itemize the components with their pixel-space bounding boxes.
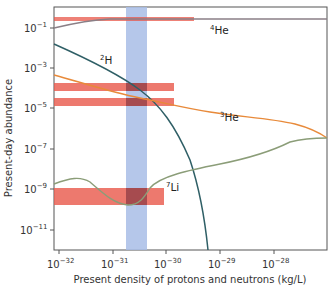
- svg-text:10−5: 10−5: [24, 101, 47, 114]
- svg-text:10−11: 10−11: [20, 223, 48, 236]
- svg-text:10−32: 10−32: [47, 257, 75, 270]
- y-ticks: [50, 28, 54, 230]
- abundance-chart: 10−1 10−3 10−5 10−7 10−9 10−11 10−32 10−…: [0, 0, 331, 286]
- band-h2: [54, 83, 174, 91]
- y-axis-title: Present-day abundance: [3, 79, 14, 197]
- plot-area: [54, 7, 327, 250]
- y-tick-labels: 10−1 10−3 10−5 10−7 10−9 10−11: [20, 21, 48, 236]
- svg-text:10−29: 10−29: [208, 257, 236, 270]
- x-ticks: [59, 250, 274, 254]
- highlight-band: [126, 7, 147, 250]
- x-tick-labels: 10−32 10−31 10−30 10−29 10−28: [47, 257, 290, 270]
- svg-text:10−28: 10−28: [262, 257, 290, 270]
- svg-text:10−31: 10−31: [101, 257, 129, 270]
- svg-text:10−1: 10−1: [24, 21, 47, 34]
- svg-text:10−30: 10−30: [154, 257, 182, 270]
- band-li7: [54, 188, 164, 205]
- svg-text:10−7: 10−7: [24, 142, 47, 155]
- svg-text:10−9: 10−9: [24, 182, 47, 195]
- svg-text:10−3: 10−3: [24, 61, 47, 74]
- x-axis-title: Present density of protons and neutrons …: [74, 274, 307, 285]
